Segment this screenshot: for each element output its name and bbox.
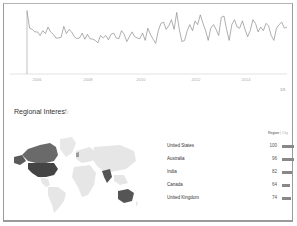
x-tick: 2014 [236, 77, 256, 82]
region-name: Canada [167, 182, 183, 187]
map-region-new-zealand [136, 201, 138, 207]
region-bar [282, 145, 294, 148]
map-region-south-america [48, 187, 66, 213]
map-region-asia [92, 145, 136, 173]
map-region-australia[interactable] [118, 189, 134, 203]
help-icon[interactable] [65, 110, 69, 114]
region-city-toggle: Region | City [268, 131, 288, 135]
region-bar [282, 184, 290, 187]
list-item[interactable]: United States 100 [167, 143, 292, 156]
world-map[interactable] [10, 135, 140, 215]
region-bar [282, 158, 294, 161]
region-bar [282, 197, 291, 200]
map-region-africa [72, 165, 96, 197]
map-region-southeast-asia [114, 175, 128, 185]
map-region-central-america [40, 177, 50, 187]
map-region-canada[interactable] [22, 143, 58, 163]
list-item[interactable]: United Kingdom 74 [167, 195, 292, 208]
region-name: India [167, 169, 177, 174]
map-region-india[interactable] [102, 169, 112, 183]
list-item[interactable]: India 82 [167, 169, 292, 182]
region-value: 74 [265, 195, 277, 200]
x-tick: 2006 [27, 77, 47, 82]
section-title: Regional Interest [14, 108, 67, 115]
x-tick: 2012 [186, 77, 206, 82]
tab-region[interactable]: Region [268, 131, 279, 135]
pagination-label[interactable]: 1/5 [280, 87, 286, 92]
region-name: United States [167, 143, 194, 148]
region-value: 82 [265, 169, 277, 174]
map-region-greenland [60, 137, 76, 157]
interest-over-time-chart: 2006 2008 2010 2012 2014 1/5 [0, 0, 297, 95]
region-name: Australia [167, 156, 185, 161]
region-name: United Kingdom [167, 195, 199, 200]
tab-city[interactable]: City [282, 131, 288, 135]
list-item[interactable]: Canada 64 [167, 182, 292, 195]
x-tick: 2008 [78, 77, 98, 82]
map-region-united-states[interactable] [28, 163, 58, 177]
region-value: 96 [265, 156, 277, 161]
tab-separator: | [280, 131, 281, 135]
list-item[interactable]: Australia 96 [167, 156, 292, 169]
trend-line [27, 11, 287, 43]
region-value: 100 [265, 143, 277, 148]
regional-list: United States 100 Australia 96 India 82 … [167, 143, 292, 208]
region-value: 64 [265, 182, 277, 187]
region-bar [282, 171, 292, 174]
bottom-border [3, 220, 293, 221]
x-tick: 2010 [131, 77, 151, 82]
